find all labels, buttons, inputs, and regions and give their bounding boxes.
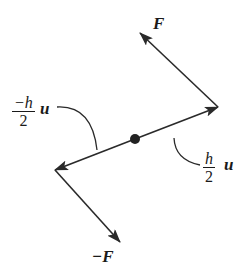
neg-half-u-vector <box>55 139 135 170</box>
force-neg-F-label: −F <box>92 247 114 267</box>
neg-half-u-leader-line <box>57 107 97 150</box>
neg-half-denominator: 2 <box>19 112 27 129</box>
pos-half-u-vector <box>135 107 218 139</box>
center-point <box>130 134 140 144</box>
force-F-vector <box>140 33 218 107</box>
pos-half-numerator: h <box>203 150 215 168</box>
pos-half-denominator: 2 <box>205 168 213 185</box>
pos-half-fraction: h 2 <box>203 150 215 185</box>
force-F-label: F <box>153 14 164 34</box>
pos-half-u-leader-line <box>174 138 200 165</box>
neg-half-numerator: −h <box>12 94 35 112</box>
neg-half-u-label: u <box>40 99 49 119</box>
force-couple-diagram: F −F −h 2 u h 2 u <box>0 0 244 274</box>
force-neg-F-vector <box>55 170 120 242</box>
pos-half-u-label: u <box>224 155 233 175</box>
neg-half-fraction: −h 2 <box>12 94 35 129</box>
diagram-graphics <box>0 0 244 274</box>
